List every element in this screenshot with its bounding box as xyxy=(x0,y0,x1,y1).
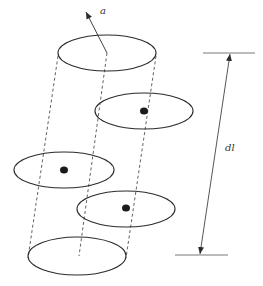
cylinder-current-loops-diagram: a dl xyxy=(0,0,263,286)
current-loop-1 xyxy=(95,93,193,129)
length-element-label: dl xyxy=(225,143,235,153)
cylinder-left-edge xyxy=(28,56,58,258)
dimension-arrow-down xyxy=(200,154,215,254)
cylinder-right-edge xyxy=(126,56,156,258)
diagram-svg xyxy=(0,0,263,286)
cylinder-bottom-ellipse xyxy=(28,237,126,275)
dimension-arrow-up xyxy=(215,54,230,154)
loop-center-dot xyxy=(122,205,130,212)
loop-center-dot xyxy=(140,108,148,115)
current-loop-2 xyxy=(14,152,114,188)
axis-vector-arrow xyxy=(86,12,107,53)
length-dimension xyxy=(175,53,255,255)
axis-vector-label: a xyxy=(100,6,106,16)
cylinder-axis-line xyxy=(79,53,107,256)
current-loop-3 xyxy=(77,191,175,227)
loop-center-dot xyxy=(60,167,68,174)
